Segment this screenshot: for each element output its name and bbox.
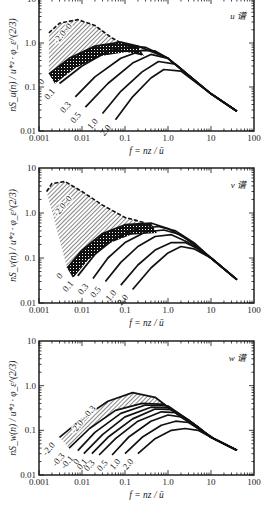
x-tick-label: 100 bbox=[247, 133, 261, 143]
x-tick-label: 0.01 bbox=[74, 305, 90, 315]
x-tick-label: 0.1 bbox=[119, 133, 130, 143]
x-tick-label: 0.01 bbox=[74, 477, 90, 487]
spectra-figure: 0.0010.010.11.0101000.010.11.010f = nz /… bbox=[0, 0, 268, 512]
y-tick-label: 0.01 bbox=[20, 126, 36, 136]
curve-1.0 bbox=[125, 421, 237, 454]
y-tick-label: 10 bbox=[27, 163, 37, 173]
y-tick-label: 0.1 bbox=[25, 253, 36, 263]
curve-0.5 bbox=[85, 54, 237, 111]
x-axis-title: f = nz / ū bbox=[129, 318, 164, 328]
curve-1.0 bbox=[121, 243, 237, 286]
y-axis-title: nS_u(n) / u*² · φ_ε^(2/3) bbox=[8, 18, 19, 111]
x-axis-title: f = nz / ū bbox=[129, 490, 164, 500]
spectrum-label: v 谱 bbox=[231, 180, 247, 190]
chart-panel-2: 0.0010.010.11.0101000.010.11.010f = nz /… bbox=[8, 163, 261, 328]
x-tick-label: 10 bbox=[207, 477, 217, 487]
curve-0.3 bbox=[75, 50, 237, 111]
x-tick-label: 100 bbox=[247, 305, 261, 315]
curve-label: 0 bbox=[36, 76, 47, 86]
x-tick-label: 100 bbox=[247, 477, 261, 487]
x-axis-title: f = nz / ū bbox=[129, 146, 164, 156]
y-tick-label: 0.01 bbox=[20, 298, 36, 308]
x-tick-label: 0.01 bbox=[74, 133, 90, 143]
curve-label: 0.3 bbox=[58, 99, 73, 114]
curve-2.0 bbox=[133, 247, 237, 290]
curve-label: 0.1 bbox=[42, 86, 57, 101]
x-tick-label: 0.1 bbox=[119, 477, 130, 487]
curve-label: 0.5 bbox=[68, 110, 83, 125]
curve-label: 0.1 bbox=[60, 279, 75, 294]
y-tick-label: 1.0 bbox=[25, 208, 37, 218]
curve-label: 1.0 bbox=[85, 116, 100, 131]
spectrum-label: w 谱 bbox=[229, 353, 247, 363]
curve-label: 0 bbox=[54, 270, 65, 280]
y-tick-label: 10 bbox=[27, 0, 37, 4]
curve-2.0 bbox=[116, 70, 237, 120]
spectrum-label: u 谱 bbox=[230, 11, 247, 21]
x-tick-label: 1.0 bbox=[162, 133, 174, 143]
y-tick-label: 0.01 bbox=[20, 470, 36, 480]
y-axis-title: nS_v(n) / u*² · φ_ε^(2/3) bbox=[8, 189, 19, 282]
y-tick-label: 0.1 bbox=[25, 425, 36, 435]
curve-label: 2.0 bbox=[121, 456, 136, 471]
curve-label: 2.0 bbox=[98, 122, 113, 137]
x-tick-label: 1.0 bbox=[162, 305, 174, 315]
curve-label: 0.5 bbox=[88, 284, 103, 299]
x-tick-label: 10 bbox=[207, 305, 217, 315]
y-tick-label: 1.0 bbox=[25, 38, 37, 48]
y-tick-label: 1.0 bbox=[25, 381, 37, 391]
chart-panel-1: 0.0010.010.11.0101000.010.11.010f = nz /… bbox=[8, 0, 261, 156]
y-tick-label: 0.1 bbox=[25, 82, 36, 92]
y-tick-label: 10 bbox=[27, 336, 37, 346]
curve-0.3 bbox=[99, 412, 237, 455]
curve-2.0 bbox=[138, 429, 237, 454]
y-axis-title: nS_w(n) / u*² · φ_ε^(2/3) bbox=[8, 361, 19, 456]
chart-panel-3: 0.0010.010.11.0101000.010.11.010f = nz /… bbox=[8, 336, 261, 500]
x-tick-label: 10 bbox=[207, 133, 217, 143]
x-tick-label: 1.0 bbox=[162, 477, 174, 487]
